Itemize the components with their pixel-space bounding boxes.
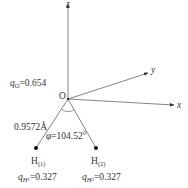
bond-length-label: 0.9572Å xyxy=(14,123,47,133)
hydrogen-1-charge-label: qH1=0.327 xyxy=(18,173,57,184)
hydrogen-atom-2 xyxy=(94,146,98,150)
oxygen-charge-value: =0.654 xyxy=(19,78,46,88)
hydrogen-atom-1 xyxy=(34,146,38,150)
hydrogen-2-symbol: H xyxy=(91,156,98,166)
bond-angle-value: =104.52° xyxy=(51,131,86,141)
y-axis xyxy=(68,73,148,99)
x-axis xyxy=(68,99,174,105)
origin-label: O xyxy=(59,92,66,102)
oxygen-charge-label: qO=0.654 xyxy=(10,79,46,90)
hydrogen-2-label: H(2) xyxy=(91,157,105,168)
hydrogen-2-index: (2) xyxy=(98,160,106,167)
y-axis-label: y xyxy=(151,66,155,76)
hydrogen-1-charge-value: =0.327 xyxy=(30,172,57,182)
hydrogen-2-charge-value: =0.327 xyxy=(94,172,121,182)
hydrogen-1-label: H(1) xyxy=(31,157,45,168)
z-axis-label: z xyxy=(66,0,70,10)
water-molecule-diagram: z y x O qO=0.654 0.9572Å φ=104.52° H(1) … xyxy=(0,0,188,188)
bond-angle-label: φ=104.52° xyxy=(46,132,87,142)
bond-angle-arc xyxy=(61,109,74,112)
x-axis-label: x xyxy=(177,101,181,111)
hydrogen-2-charge-label: qH2=0.327 xyxy=(82,173,121,184)
hydrogen-1-index: (1) xyxy=(38,160,46,167)
hydrogen-1-symbol: H xyxy=(31,156,38,166)
oxygen-atom xyxy=(67,98,69,100)
